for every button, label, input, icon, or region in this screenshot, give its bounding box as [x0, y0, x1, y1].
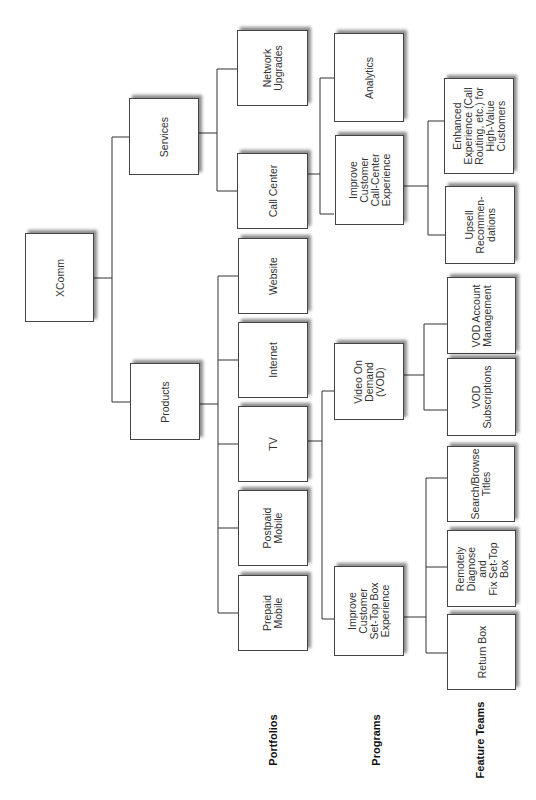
connector-tv — [308, 391, 334, 619]
node-label: Internet — [268, 318, 279, 402]
node-label: Video On Demand (VOD) — [353, 340, 386, 424]
node-analytics: Analytics — [334, 33, 404, 122]
node-label: Search/Browse Titles — [470, 442, 492, 526]
connector-products — [200, 276, 238, 613]
connector-improve-call-center — [404, 121, 447, 235]
node-upsell: Upsell Recommen- dations — [445, 186, 515, 264]
node-tv: TV — [238, 406, 308, 482]
connector-vod — [404, 324, 447, 410]
node-remotely-diagnose: Remotely Diagnose and Fix Set-Top Box — [447, 530, 516, 607]
node-label: Network Upgrades — [262, 26, 284, 110]
node-label: Return Box — [476, 610, 487, 694]
node-internet: Internet — [238, 322, 308, 398]
connector-call-center — [308, 78, 334, 214]
level-label-feature-teams: Feature Teams — [474, 702, 486, 779]
node-label: Improve Customer Call-Center Experience — [348, 138, 392, 222]
connector-improve-set-top — [404, 478, 447, 653]
node-label: Upsell Recommen- dations — [464, 183, 497, 267]
node-products: Products — [130, 363, 200, 440]
node-search-browse: Search/Browse Titles — [447, 446, 515, 522]
node-label: Products — [160, 360, 171, 444]
node-postpaid-mobile: Postpaid Mobile — [238, 490, 308, 566]
node-label: Remotely Diagnose and Fix Set-Top Box — [454, 527, 509, 611]
node-label: VOD Account Management — [471, 274, 493, 358]
node-label: Enhanced Experience (Call Routing, etc.)… — [452, 80, 507, 172]
node-label: Postpaid Mobile — [262, 486, 284, 570]
node-prepaid-mobile: Prepaid Mobile — [238, 575, 308, 651]
node-network-upgrades: Network Upgrades — [237, 30, 308, 106]
node-improve-set-top: Improve Customer Set-Top Box Experience — [334, 566, 404, 656]
connector-root — [94, 137, 130, 402]
node-label: XComm — [54, 236, 65, 320]
level-label-programs: Programs — [370, 714, 382, 765]
node-vod-subscriptions: VOD Subscriptions — [447, 358, 516, 436]
node-label: Services — [159, 95, 170, 179]
node-call-center: Call Center — [237, 153, 308, 229]
node-label: Improve Customer Set-Top Box Experience — [347, 569, 391, 653]
node-label: VOD Subscriptions — [471, 355, 493, 439]
node-label: Prepaid Mobile — [262, 571, 284, 655]
node-label: Call Center — [267, 149, 278, 233]
node-vod-account: VOD Account Management — [447, 277, 516, 354]
node-improve-call-center: Improve Customer Call-Center Experience — [335, 135, 404, 225]
node-services: Services — [129, 98, 199, 175]
connector-services — [199, 69, 237, 191]
node-label: Website — [268, 234, 279, 318]
node-xcomm: XComm — [25, 233, 94, 322]
node-return-box: Return Box — [447, 614, 516, 690]
node-label: TV — [268, 402, 279, 486]
node-website: Website — [238, 238, 308, 314]
level-label-portfolios: Portfolios — [267, 714, 279, 765]
node-enhanced-experience: Enhanced Experience (Call Routing, etc.)… — [444, 78, 514, 174]
node-label: Analytics — [364, 36, 375, 120]
node-vod: Video On Demand (VOD) — [334, 343, 404, 420]
